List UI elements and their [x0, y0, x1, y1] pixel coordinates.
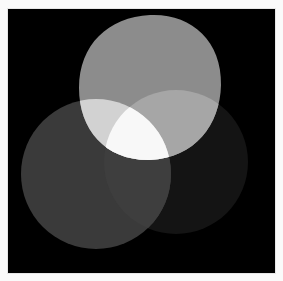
venn-light-figure [0, 0, 283, 281]
